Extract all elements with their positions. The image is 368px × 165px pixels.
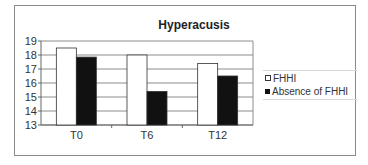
bar-fhhi xyxy=(127,55,147,125)
legend-item-fhhi: FHHI xyxy=(265,73,296,85)
legend-swatch-fhhi-icon xyxy=(265,75,271,81)
y-tick-label: 16 xyxy=(25,77,37,89)
y-tick-label: 15 xyxy=(25,91,37,103)
x-tick-label: T12 xyxy=(208,129,227,141)
bar-absence-fhhi xyxy=(218,76,238,125)
legend-label: FHHI xyxy=(273,73,296,84)
legend: FHHI Absence of FHHI xyxy=(263,70,357,100)
y-tick-label: 14 xyxy=(25,105,37,117)
bar-fhhi xyxy=(198,63,218,125)
bar-absence-fhhi xyxy=(147,91,167,125)
y-tick-label: 17 xyxy=(25,63,37,75)
x-tick-label: T6 xyxy=(141,129,154,141)
y-tick-label: 18 xyxy=(25,49,37,61)
bar-fhhi xyxy=(56,48,76,125)
legend-swatch-absence-icon xyxy=(265,89,270,94)
bar-absence-fhhi xyxy=(76,57,96,125)
legend-label: Absence of FHHI xyxy=(272,86,348,97)
y-tick-label: 19 xyxy=(25,35,37,47)
y-tick-label: 13 xyxy=(25,119,37,131)
x-tick-label: T0 xyxy=(70,129,83,141)
legend-item-absence-fhhi: Absence of FHHI xyxy=(265,86,348,98)
